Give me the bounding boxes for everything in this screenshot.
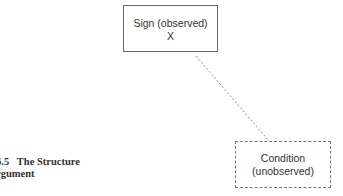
sign-label: Sign (observed) — [124, 17, 217, 30]
section-heading: 6.5 The Structure rgument — [0, 156, 80, 180]
heading-line-1: 6.5 The Structure — [0, 156, 80, 168]
sign-variable: X — [124, 30, 217, 43]
sign-observed-node: Sign (observed) X — [123, 5, 218, 52]
heading-line-2: rgument — [0, 168, 80, 180]
condition-unobserved-node: Condition (unobserved) — [235, 141, 331, 188]
condition-sublabel: (unobserved) — [236, 165, 330, 178]
condition-label: Condition — [236, 152, 330, 165]
